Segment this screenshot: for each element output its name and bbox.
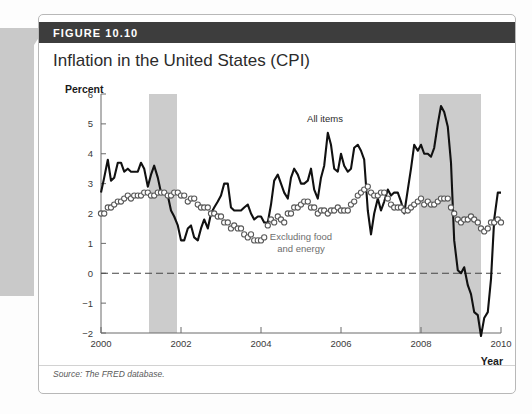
y-tick-label: 4 [88, 148, 93, 159]
core-cpi-marker [282, 220, 287, 225]
core-cpi-annotation-line1: Excluding food [270, 231, 332, 242]
chart-plot-area: −2−10123456200020022004200620082010All i… [39, 15, 516, 394]
x-tick-label: 2004 [250, 338, 271, 349]
core-cpi-marker [382, 190, 387, 195]
core-cpi-marker [192, 196, 197, 201]
core-cpi-marker [448, 205, 453, 210]
core-cpi-marker [225, 220, 230, 225]
core-cpi-marker [265, 223, 270, 228]
all-items-annotation: All items [307, 113, 343, 124]
x-tick-label: 2002 [170, 338, 191, 349]
y-tick-label: −2 [82, 328, 93, 339]
core-cpi-marker [288, 211, 293, 216]
core-cpi-marker [248, 232, 253, 237]
core-cpi-marker [485, 226, 490, 231]
y-tick-label: −1 [82, 298, 93, 309]
core-cpi-annotation-line2: and energy [277, 243, 325, 254]
core-cpi-marker [452, 211, 457, 216]
core-cpi-marker [218, 214, 223, 219]
page-edge-tab [0, 28, 34, 296]
core-cpi-marker [498, 220, 503, 225]
figure-panel: FIGURE 10.10 Inflation in the United Sta… [38, 14, 516, 394]
y-tick-label: 1 [88, 238, 93, 249]
x-tick-label: 2000 [90, 338, 111, 349]
source-note: Source: The FRED database. [53, 369, 165, 379]
x-tick-label: 2008 [410, 338, 431, 349]
core-cpi-marker [352, 199, 357, 204]
core-cpi-marker [345, 208, 350, 213]
core-cpi-marker [182, 193, 187, 198]
core-cpi-marker [262, 235, 267, 240]
x-tick-label: 2010 [490, 338, 511, 349]
core-cpi-marker [418, 196, 423, 201]
core-cpi-marker [272, 220, 277, 225]
core-cpi-marker [205, 205, 210, 210]
figure-screenshot: FIGURE 10.10 Inflation in the United Sta… [0, 0, 532, 414]
core-cpi-marker [445, 196, 450, 201]
core-cpi-marker [475, 220, 480, 225]
x-tick-label: 2006 [330, 338, 351, 349]
y-tick-label: 6 [88, 89, 93, 100]
core-cpi-marker [365, 184, 370, 189]
core-cpi-marker [305, 199, 310, 204]
y-tick-label: 5 [88, 118, 93, 129]
y-tick-label: 2 [88, 208, 93, 219]
core-cpi-marker [385, 196, 390, 201]
core-cpi-marker [238, 226, 243, 231]
core-cpi-marker [102, 211, 107, 216]
y-tick-label: 0 [88, 268, 93, 279]
core-cpi-marker [312, 205, 317, 210]
y-tick-label: 3 [88, 178, 93, 189]
source-divider [39, 365, 515, 366]
